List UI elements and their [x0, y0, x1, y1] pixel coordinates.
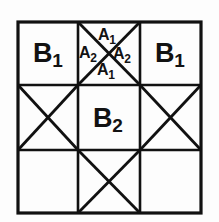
x-mark-cell-r3c2: [78, 150, 140, 213]
region-label-a1-bottom-base: A: [97, 61, 108, 78]
region-label-a2-left-sub: 2: [90, 51, 96, 65]
region-label-a2-left: A2: [79, 45, 97, 61]
region-label-a2-right: A2: [113, 46, 131, 62]
region-label-a1-top: A1: [98, 27, 116, 43]
region-label-b1-top-right: B1: [155, 40, 185, 67]
figure-root: B1 B1 B2 A1 A2 A2 A1: [0, 0, 219, 222]
region-label-a1-top-base: A: [98, 26, 109, 43]
region-label-b2-center-sub: 2: [112, 115, 122, 136]
region-label-b1-top-right-base: B: [155, 38, 174, 68]
region-label-a2-right-base: A: [113, 45, 124, 62]
region-label-b1-top-left-base: B: [33, 38, 52, 68]
region-label-b2-center-base: B: [93, 103, 112, 133]
region-label-a2-right-sub: 2: [124, 52, 130, 66]
region-label-b1-top-right-sub: 1: [174, 50, 184, 71]
x-mark-cell-r2c3: [140, 85, 201, 150]
x-mark-cell-r2c1: [18, 85, 78, 150]
region-label-a1-bottom: A1: [97, 62, 115, 78]
region-label-b2-center: B2: [93, 105, 123, 132]
region-label-b1-top-left-sub: 1: [52, 50, 62, 71]
region-label-b1-top-left: B1: [33, 40, 63, 67]
region-label-a1-bottom-sub: 1: [108, 68, 114, 82]
region-label-a2-left-base: A: [79, 44, 90, 61]
